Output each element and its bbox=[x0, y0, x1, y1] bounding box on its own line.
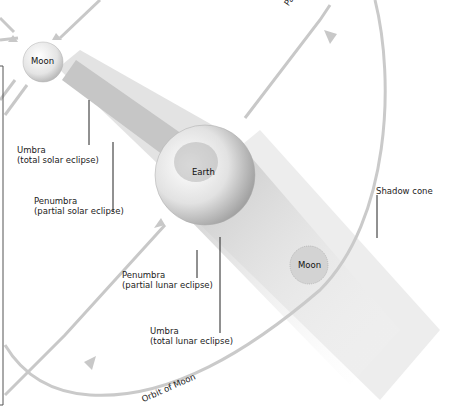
earth-label: Earth bbox=[192, 167, 215, 177]
frame-bracket bbox=[0, 66, 3, 405]
penumbra-lunar-label: Penumbra (partial lunar eclipse) bbox=[122, 270, 213, 290]
umbra-lunar-desc: (total lunar eclipse) bbox=[150, 336, 233, 346]
penumbra-solar-desc: (partial solar eclipse) bbox=[34, 206, 124, 216]
umbra-lunar-label: Umbra (total lunar eclipse) bbox=[150, 326, 233, 346]
penumbra-lunar-title: Penumbra bbox=[122, 270, 213, 280]
penumbra-solar-title: Penumbra bbox=[34, 196, 124, 206]
penumbra-lunar-desc: (partial lunar eclipse) bbox=[122, 280, 213, 290]
moon-top-label: Moon bbox=[31, 56, 54, 66]
moon-bottom-label: Moon bbox=[298, 260, 321, 270]
penumbra-solar-label: Penumbra (partial solar eclipse) bbox=[34, 196, 124, 216]
umbra-solar-desc: (total solar eclipse) bbox=[17, 155, 99, 165]
umbra-solar-label: Umbra (total solar eclipse) bbox=[17, 145, 99, 165]
shadow-cone-label: Shadow cone bbox=[376, 186, 433, 196]
umbra-solar-title: Umbra bbox=[17, 145, 99, 155]
umbra-lunar-title: Umbra bbox=[150, 326, 233, 336]
